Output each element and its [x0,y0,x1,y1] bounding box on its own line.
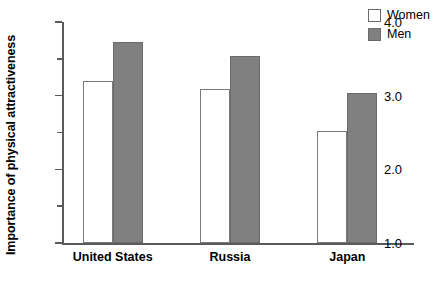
y-tick-major [55,95,62,97]
legend-swatch-women-icon [368,9,381,22]
bar-men-russia [230,56,260,243]
bar-chart: Importance of physical attractiveness 1.… [0,0,440,290]
y-tick-minor [57,205,62,207]
bar-women-united-states [83,81,113,243]
legend-swatch-men-icon [368,28,381,41]
x-axis-label-russia: Russia [171,250,288,264]
y-tick-major [55,242,62,244]
y-tick-major [55,169,62,171]
bar-men-united-states [113,42,143,243]
bar-men-japan [347,93,377,243]
y-tick-minor [57,132,62,134]
y-tick-minor [57,58,62,60]
bar-women-japan [317,131,347,243]
bar-women-russia [200,89,230,243]
plot-area: 1.02.03.04.0 United StatesRussiaJapan [62,22,414,243]
legend-item-women: Women [368,8,430,22]
x-axis-label-united-states: United States [54,250,171,264]
legend: Women Men [368,8,430,41]
y-axis-title: Importance of physical attractiveness [0,0,22,290]
legend-label-women: Women [387,8,430,22]
legend-item-men: Men [368,27,430,41]
legend-label-men: Men [387,27,411,41]
y-tick-major [55,21,62,23]
x-axis-label-japan: Japan [289,250,406,264]
x-axis-line [62,243,414,245]
y-axis-line [62,22,64,243]
